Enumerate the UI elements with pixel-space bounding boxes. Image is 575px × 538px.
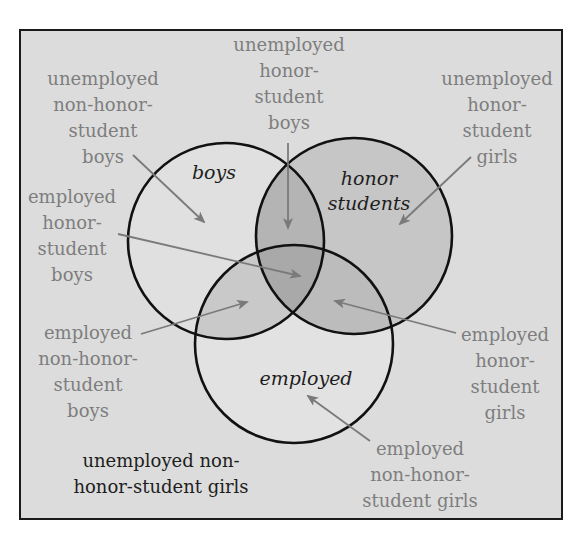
label-line: unemployed non- — [73, 448, 248, 474]
label-line: employed — [461, 322, 549, 348]
set-name-line: employed — [259, 366, 352, 391]
label-line: honor- — [441, 92, 552, 118]
label-line: honor-student girls — [73, 474, 248, 500]
label-line: student — [28, 236, 116, 262]
label-line: boys — [233, 110, 344, 136]
label-line: unemployed — [47, 66, 158, 92]
label-line: non-honor- — [362, 462, 478, 488]
label-line: honor- — [233, 58, 344, 84]
label-line: student — [461, 374, 549, 400]
set-name-line: honor — [328, 166, 411, 191]
label-line: student — [38, 372, 138, 398]
label-unemployed-non-honor-student-girls: unemployed non-honor-student girls — [73, 448, 248, 500]
set-name-boys: boys — [192, 160, 236, 185]
label-unemployed-honor-student-boys: unemployedhonor-studentboys — [233, 32, 344, 136]
label-line: student — [233, 84, 344, 110]
label-line: non-honor- — [47, 92, 158, 118]
label-line: honor- — [461, 348, 549, 374]
label-line: student girls — [362, 488, 478, 514]
label-employed-honor-student-girls: employedhonor-studentgirls — [461, 322, 549, 426]
label-unemployed-non-honor-student-boys: unemployednon-honor-studentboys — [47, 66, 158, 170]
label-line: boys — [28, 262, 116, 288]
set-name-line: boys — [192, 160, 236, 185]
label-line: unemployed — [441, 66, 552, 92]
set-name-honor: honorstudents — [328, 166, 411, 216]
label-line: unemployed — [233, 32, 344, 58]
label-line: boys — [38, 398, 138, 424]
label-employed-non-honor-student-boys: employednon-honor-studentboys — [38, 320, 138, 424]
label-line: girls — [441, 144, 552, 170]
label-line: boys — [47, 144, 158, 170]
label-line: student — [441, 118, 552, 144]
label-line: employed — [38, 320, 138, 346]
label-unemployed-honor-student-girls: unemployedhonor-studentgirls — [441, 66, 552, 170]
label-line: employed — [28, 184, 116, 210]
label-employed-non-honor-student-girls: employednon-honor-student girls — [362, 436, 478, 514]
label-line: honor- — [28, 210, 116, 236]
set-name-line: students — [328, 191, 411, 216]
label-employed-honor-student-boys: employedhonor-studentboys — [28, 184, 116, 288]
label-line: non-honor- — [38, 346, 138, 372]
label-line: employed — [362, 436, 478, 462]
label-line: girls — [461, 400, 549, 426]
label-line: student — [47, 118, 158, 144]
set-name-employed: employed — [259, 366, 352, 391]
